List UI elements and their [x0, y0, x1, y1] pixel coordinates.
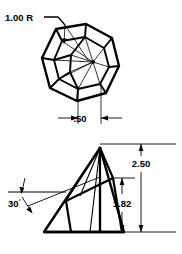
radius-leader-arrow-shaft-2	[65, 25, 88, 60]
width-arrowhead-right	[101, 116, 108, 121]
secondary-height-dimension-label: 1.82	[113, 198, 132, 209]
height-dimension-group	[44, 144, 176, 232]
pyramid-mid-facet	[66, 201, 100, 232]
pyramid-outline	[44, 148, 124, 232]
radius-leader-line	[44, 17, 65, 25]
degree-symbol: °	[19, 198, 22, 204]
height-arrowhead-bottom	[139, 225, 144, 232]
width-dimension-group	[58, 84, 122, 124]
octagon-center-cell	[70, 55, 78, 89]
radius-callout-label: 1.00 R	[5, 12, 33, 23]
angle-dimension-label: 30°	[8, 198, 22, 209]
height-dimension-label: 2.50	[132, 158, 151, 169]
top-view-group	[42, 24, 119, 101]
angle-value: 30	[8, 198, 19, 209]
angle-upper-arrowhead	[20, 187, 25, 194]
octagon-apex-point	[91, 60, 95, 64]
technical-drawing-canvas: 1.00 R .50	[0, 0, 182, 254]
pyramid-apex-point	[98, 146, 101, 149]
octagon-center-cell-edge-2	[59, 72, 70, 79]
angle-lower-arrowhead	[26, 207, 32, 214]
front-view-group	[44, 146, 124, 232]
drawing-sheet: 1.00 R .50	[0, 0, 182, 254]
angle-dimension-group	[8, 177, 100, 214]
width-dimension-label: .50	[73, 113, 86, 124]
octagon-inner-facet-ring	[54, 37, 109, 89]
height-arrowhead-top	[139, 144, 144, 151]
secondary-arrowhead-top	[120, 178, 125, 185]
